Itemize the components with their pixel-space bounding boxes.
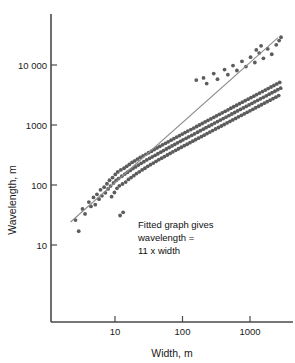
data-point <box>262 56 266 60</box>
data-point <box>110 195 114 199</box>
data-point <box>279 35 283 39</box>
chart-figure: 10100100010 000 101001000 Wavelength, m … <box>0 0 295 363</box>
y-tick-label: 100 <box>31 180 47 191</box>
x-axis-title: Width, m <box>151 347 193 359</box>
data-point <box>223 68 227 72</box>
data-point <box>259 44 263 48</box>
data-point <box>278 81 282 85</box>
data-points-layer <box>74 35 283 233</box>
data-point <box>194 78 198 82</box>
data-point <box>102 185 106 189</box>
y-tick-label: 10 000 <box>18 60 47 71</box>
data-point <box>277 39 281 43</box>
fit-annotation-line-3: 11 x width <box>138 244 214 257</box>
x-tick-label: 10 <box>110 326 121 337</box>
data-point <box>235 69 239 73</box>
fit-annotation-line-1: Fitted graph gives <box>138 218 214 231</box>
x-axis-ticks: 101001000 <box>110 316 261 337</box>
data-point <box>202 76 206 80</box>
data-point <box>274 43 278 47</box>
y-axis-title: Wavelength, m <box>6 165 18 235</box>
data-point <box>105 182 109 186</box>
data-point <box>249 55 253 59</box>
data-point <box>279 86 283 90</box>
data-point <box>254 48 258 52</box>
data-point <box>92 196 96 200</box>
fit-annotation-line-2: wavelength = <box>138 231 214 244</box>
scatter-plot-svg: 10100100010 000 101001000 Wavelength, m … <box>0 0 295 363</box>
data-point <box>205 82 209 86</box>
data-point <box>240 59 244 63</box>
x-tick-label: 100 <box>175 326 191 337</box>
data-point <box>277 94 281 98</box>
data-point <box>77 229 81 233</box>
x-tick-label: 1000 <box>239 326 260 337</box>
data-point <box>83 212 87 216</box>
data-point <box>212 72 216 76</box>
data-point <box>93 203 97 207</box>
data-point <box>124 180 128 184</box>
data-point <box>226 73 230 77</box>
y-tick-label: 10 <box>36 240 47 251</box>
fitted-line <box>71 38 278 222</box>
data-point <box>108 178 112 182</box>
data-point <box>121 210 125 214</box>
data-point <box>253 61 257 65</box>
data-point <box>99 188 103 192</box>
data-point <box>95 192 99 196</box>
data-point <box>216 77 220 81</box>
data-point <box>231 64 235 68</box>
fit-annotation: Fitted graph gives wavelength = 11 x wid… <box>138 218 214 257</box>
y-tick-label: 1000 <box>26 120 47 131</box>
data-point <box>270 52 274 56</box>
data-point <box>113 191 117 195</box>
data-point <box>118 214 122 218</box>
data-point <box>87 200 91 204</box>
data-point <box>111 176 115 180</box>
data-point <box>121 182 125 186</box>
